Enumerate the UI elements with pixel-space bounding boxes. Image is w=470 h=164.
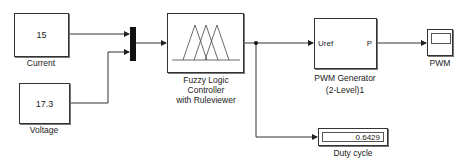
pwm-label-line1: PWM Generator xyxy=(314,72,375,84)
scope-block[interactable] xyxy=(427,29,453,56)
pwm-label-line2: (2-Level)1 xyxy=(314,84,375,96)
current-constant-block[interactable]: 15 xyxy=(14,13,69,57)
scope-screen-icon xyxy=(431,33,451,44)
voltage-label: Voltage xyxy=(30,125,58,135)
fuzzy-label-line2: Controller xyxy=(176,85,236,95)
duty-cycle-display-block[interactable]: 0.6429 xyxy=(318,128,388,146)
mux-block[interactable] xyxy=(130,27,136,61)
fuzzy-label-line1: Fuzzy Logic xyxy=(176,75,236,85)
voltage-value: 17.3 xyxy=(20,99,69,109)
current-value: 15 xyxy=(15,30,68,40)
pwm-generator-block[interactable]: Uref P xyxy=(314,18,377,69)
duty-cycle-label: Duty cycle xyxy=(333,148,372,158)
display-value: 0.6429 xyxy=(322,132,384,142)
pwm-generator-label: PWM Generator (2-Level)1 xyxy=(314,72,375,96)
fuzzy-label-line3: with Ruleviewer xyxy=(176,95,236,105)
fuzzy-label: Fuzzy Logic Controller with Ruleviewer xyxy=(176,75,236,105)
uref-port: Uref xyxy=(318,39,333,48)
scope-label: PWM xyxy=(430,58,451,68)
fuzzy-logic-controller-block[interactable] xyxy=(167,13,244,73)
p-port: P xyxy=(367,39,372,48)
voltage-constant-block[interactable]: 17.3 xyxy=(19,83,70,124)
current-label: Current xyxy=(27,58,55,68)
